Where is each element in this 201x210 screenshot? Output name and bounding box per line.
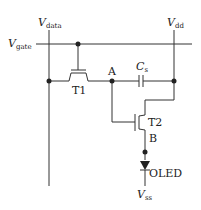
t1-label: T1	[72, 84, 86, 97]
junction-dot	[47, 79, 52, 84]
vgate-label: Vgate	[8, 37, 32, 51]
t1-channel	[49, 73, 112, 81]
vdd-label: Vdd	[167, 16, 184, 30]
node-b-label: B	[149, 132, 157, 145]
t2-gate-wire	[112, 81, 135, 122]
node-b-dot	[143, 150, 148, 155]
cs-label: Cs	[136, 60, 148, 74]
t2-channel	[139, 115, 145, 130]
vss-label: Vss	[137, 188, 153, 202]
t2-label: T2	[148, 116, 162, 129]
oled-label: OLED	[149, 167, 182, 180]
node-a-label: A	[107, 65, 117, 78]
t2-drain-wire	[145, 81, 174, 115]
circuit-diagram: Vdata Vdd Vgate Cs A T1 T2 B OLED Vss	[0, 0, 201, 210]
junction-dot	[172, 79, 177, 84]
vdata-label: Vdata	[38, 16, 62, 30]
node-a-dot	[110, 79, 115, 84]
junction-dot	[76, 42, 81, 47]
